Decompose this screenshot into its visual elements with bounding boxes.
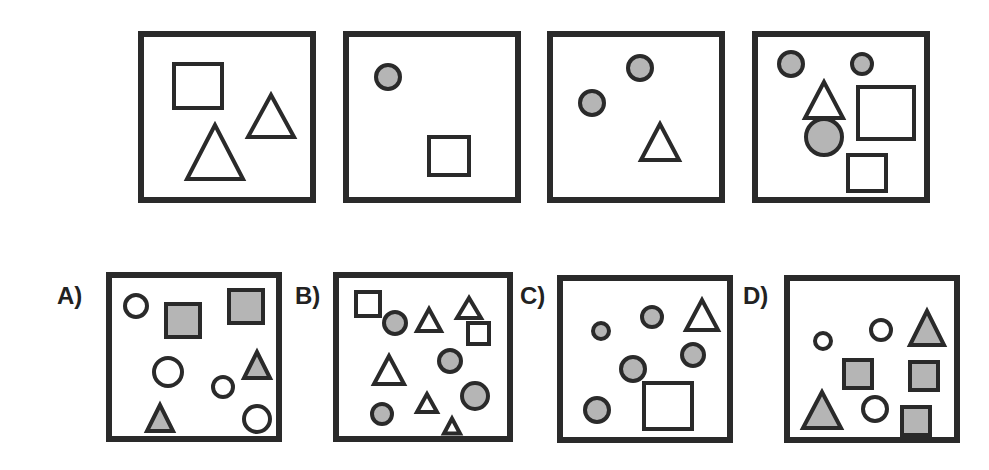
gray-circle-shape xyxy=(384,312,406,334)
option-label-c: C) xyxy=(520,282,545,310)
gray-square-shape xyxy=(910,362,938,390)
white-triangle-shape xyxy=(248,95,294,137)
white-square-shape xyxy=(356,292,380,316)
white-triangle-shape xyxy=(444,419,460,434)
gray-circle-shape xyxy=(593,323,609,339)
white-square-shape xyxy=(429,137,469,175)
gray-circle-shape xyxy=(852,54,872,74)
white-triangle-shape xyxy=(686,300,718,330)
gray-circle-shape xyxy=(806,119,842,155)
gray-square-shape xyxy=(902,407,930,435)
gray-circle-shape xyxy=(462,383,488,409)
gray-circle-shape xyxy=(376,65,400,89)
gray-circle-shape xyxy=(439,350,461,372)
gray-circle-shape xyxy=(621,357,645,381)
gray-square-shape xyxy=(844,360,872,388)
panel-canvas xyxy=(758,37,924,197)
gray-circle-shape xyxy=(779,52,803,76)
white-square-shape xyxy=(468,323,489,344)
white-circle-shape xyxy=(815,333,831,349)
white-circle-shape xyxy=(871,320,891,340)
white-circle-shape xyxy=(213,377,233,397)
gray-square-shape xyxy=(229,290,263,323)
panel-canvas xyxy=(144,37,310,197)
white-square-shape xyxy=(644,383,692,429)
white-square-shape xyxy=(858,87,914,139)
white-circle-shape xyxy=(863,397,887,421)
option-label-d: D) xyxy=(743,282,768,310)
panel-canvas xyxy=(563,281,727,437)
question-panel-1 xyxy=(138,31,316,203)
gray-circle-shape xyxy=(628,56,652,80)
gray-square-shape xyxy=(166,304,200,337)
gray-triangle-shape xyxy=(244,352,270,378)
gray-circle-shape xyxy=(580,91,604,115)
white-triangle-shape xyxy=(187,125,243,179)
white-circle-shape xyxy=(125,295,147,317)
answer-option-a[interactable] xyxy=(106,272,282,442)
gray-circle-shape xyxy=(585,398,609,422)
panel-canvas xyxy=(790,281,954,437)
question-panel-4 xyxy=(752,31,930,203)
option-label-b: B) xyxy=(295,282,320,310)
gray-circle-shape xyxy=(682,344,704,366)
white-triangle-shape xyxy=(805,82,843,118)
option-label-a: A) xyxy=(57,282,82,310)
white-triangle-shape xyxy=(417,394,437,412)
white-circle-shape xyxy=(244,406,270,432)
white-triangle-shape xyxy=(417,309,441,331)
answer-option-b[interactable] xyxy=(333,272,513,442)
white-circle-shape xyxy=(154,358,182,386)
answer-option-c[interactable] xyxy=(557,275,733,443)
panel-canvas xyxy=(112,278,276,436)
white-triangle-shape xyxy=(457,298,481,318)
question-panel-3 xyxy=(547,31,725,203)
gray-circle-shape xyxy=(642,307,662,327)
question-panel-2 xyxy=(343,31,521,203)
gray-triangle-shape xyxy=(147,405,173,431)
gray-triangle-shape xyxy=(803,392,841,428)
white-triangle-shape xyxy=(374,356,404,384)
panel-canvas xyxy=(349,37,515,197)
panel-canvas xyxy=(339,278,507,436)
gray-triangle-shape xyxy=(910,311,944,345)
white-square-shape xyxy=(174,64,222,108)
white-square-shape xyxy=(848,155,886,191)
answer-option-d[interactable] xyxy=(784,275,960,443)
panel-canvas xyxy=(553,37,719,197)
white-triangle-shape xyxy=(641,124,679,160)
gray-circle-shape xyxy=(372,404,392,424)
